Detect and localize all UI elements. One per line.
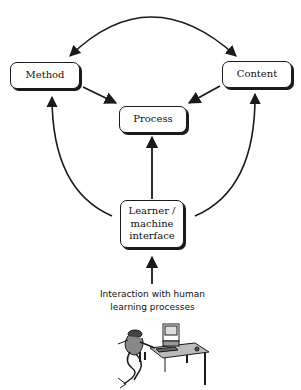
- node-learner-line1: Learner /: [129, 205, 176, 218]
- node-learner-line3: interface: [129, 230, 175, 243]
- diagram-canvas: [0, 0, 301, 390]
- node-content-label: Content: [237, 68, 278, 81]
- node-method: Method: [10, 62, 80, 89]
- arrow-content-process: [189, 86, 220, 103]
- arrow-method-process: [83, 87, 116, 103]
- node-learner-line2: machine: [130, 218, 173, 231]
- node-process: Process: [119, 106, 187, 133]
- arc-learner-content: [195, 94, 255, 216]
- node-method-label: Method: [25, 69, 64, 82]
- arc-learner-method: [52, 97, 112, 216]
- caption-line2: learning processes: [80, 301, 225, 314]
- node-content: Content: [222, 61, 292, 88]
- node-learner-machine-interface: Learner / machine interface: [120, 200, 184, 248]
- arc-method-content: [70, 17, 236, 56]
- node-process-label: Process: [133, 113, 172, 126]
- human-learning-caption: Interaction with human learning processe…: [80, 288, 225, 314]
- person-at-desk-icon: [118, 324, 209, 388]
- caption-line1: Interaction with human: [80, 288, 225, 301]
